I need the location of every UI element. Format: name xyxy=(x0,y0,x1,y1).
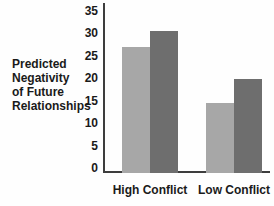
bar-high-conflict-light-gray-bar xyxy=(122,47,150,173)
y-tick-label-30: 30 xyxy=(72,27,98,39)
y-tick-label-35: 35 xyxy=(72,5,98,17)
y-tick-label-10: 10 xyxy=(72,117,98,129)
y-axis-line xyxy=(103,3,105,173)
bar-chart-figure: Predicted Negativity of Future Relations… xyxy=(0,0,274,206)
y-tick-label-5: 5 xyxy=(72,140,98,152)
x-category-label-high-conflict: High Conflict xyxy=(113,184,188,197)
y-tick-label-0: 0 xyxy=(72,162,98,174)
y-tick-label-15: 15 xyxy=(72,95,98,107)
bar-low-conflict-light-gray-bar xyxy=(206,103,234,173)
y-tick-label-20: 20 xyxy=(72,72,98,84)
y-tick-label-25: 25 xyxy=(72,50,98,62)
bar-low-conflict-dark-gray-bar xyxy=(234,79,262,173)
x-category-label-low-conflict: Low Conflict xyxy=(198,184,270,197)
bar-high-conflict-dark-gray-bar xyxy=(150,31,178,173)
